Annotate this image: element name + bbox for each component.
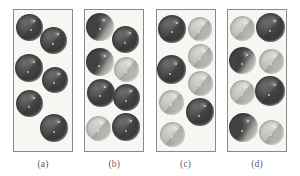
sphere-highlight <box>199 58 201 60</box>
sphere-highlight <box>176 22 178 24</box>
sphere-highlight <box>103 19 105 21</box>
sphere-highlight <box>268 94 270 96</box>
sphere-highlight <box>58 73 60 75</box>
sphere <box>158 15 186 43</box>
sphere-highlight <box>270 134 272 136</box>
sphere-highlight <box>125 130 127 132</box>
sphere <box>230 80 255 105</box>
panel-group: (a) (b) (c) (d) <box>0 9 300 176</box>
sphere-facet <box>86 13 114 41</box>
sphere-highlight <box>175 128 177 130</box>
panel-a <box>13 9 73 152</box>
sphere <box>188 71 213 96</box>
sphere-highlight <box>33 61 35 63</box>
sphere <box>255 76 285 106</box>
sphere-highlight <box>198 31 200 33</box>
panel-d <box>227 9 287 152</box>
panel-label-d: (d) <box>251 160 263 170</box>
sphere <box>188 17 212 41</box>
sphere-highlight <box>33 20 35 22</box>
sphere-highlight <box>57 33 59 35</box>
sphere <box>159 90 184 115</box>
sphere-highlight <box>99 28 101 30</box>
sphere-facet <box>15 54 43 82</box>
sphere-highlight <box>274 84 276 86</box>
sphere-facet <box>188 44 213 69</box>
panel-label-c: (c) <box>180 160 191 170</box>
sphere-highlight <box>246 54 248 56</box>
sphere-highlight <box>241 63 243 65</box>
sphere-highlight <box>274 126 276 128</box>
panel-label-b: (b) <box>108 160 120 170</box>
sphere <box>256 13 285 42</box>
sphere-highlight <box>104 55 106 57</box>
sphere <box>40 114 68 142</box>
sphere-highlight <box>28 106 30 108</box>
sphere-facet <box>86 116 111 141</box>
sphere-facet <box>256 13 285 42</box>
panel-c <box>156 9 216 152</box>
sphere-facet <box>259 49 284 74</box>
sphere-highlight <box>269 30 271 32</box>
sphere-highlight <box>124 42 126 44</box>
sphere-highlight <box>169 73 171 75</box>
sphere <box>86 116 111 141</box>
sphere-facet <box>259 120 284 145</box>
sphere-highlight <box>53 82 55 84</box>
sphere-facet <box>157 55 186 84</box>
sphere-facet <box>87 79 115 107</box>
sphere <box>188 44 213 69</box>
sphere-highlight <box>58 121 60 123</box>
panel-b <box>84 9 144 152</box>
sphere-highlight <box>129 63 131 65</box>
sphere-highlight <box>199 85 201 87</box>
sphere-facet <box>86 48 114 76</box>
sphere-facet <box>160 122 185 147</box>
sphere-highlight <box>170 104 172 106</box>
sphere-facet <box>40 27 67 54</box>
sphere-highlight <box>171 31 173 33</box>
sphere-highlight <box>175 63 177 65</box>
sphere <box>87 79 115 107</box>
sphere-facet <box>159 90 184 115</box>
sphere-highlight <box>241 130 243 132</box>
sphere-facet <box>16 90 43 117</box>
sphere <box>186 98 214 126</box>
sphere-facet <box>114 57 139 82</box>
sphere-highlight <box>245 86 247 88</box>
sphere-highlight <box>245 22 247 24</box>
sphere-highlight <box>129 32 131 34</box>
sphere-highlight <box>204 105 206 107</box>
sphere <box>16 14 43 41</box>
sphere <box>114 57 139 82</box>
sphere-highlight <box>98 65 100 67</box>
sphere-highlight <box>125 71 127 73</box>
sphere-highlight <box>125 100 127 102</box>
sphere-highlight <box>97 130 99 132</box>
sphere-facet <box>229 113 258 142</box>
sphere-highlight <box>202 23 204 25</box>
sphere-facet <box>230 80 255 105</box>
sphere-facet <box>112 26 139 53</box>
sphere-highlight <box>104 86 106 88</box>
sphere-facet <box>158 15 186 43</box>
panel-cell-d: (d) <box>226 9 288 176</box>
panel-cell-c: (c) <box>155 9 217 176</box>
sphere-highlight <box>270 63 272 65</box>
sphere-highlight <box>101 122 103 124</box>
sphere-facet <box>40 114 68 142</box>
sphere <box>113 84 140 111</box>
sphere-facet <box>188 71 213 96</box>
sphere-highlight <box>171 136 173 138</box>
sphere-facet <box>42 67 68 93</box>
sphere-highlight <box>30 29 32 31</box>
panel-cell-b: (b) <box>83 9 145 176</box>
sphere-highlight <box>130 120 132 122</box>
sphere-highlight <box>241 94 243 96</box>
sphere <box>259 49 284 74</box>
sphere-highlight <box>99 95 101 97</box>
sphere-highlight <box>174 96 176 98</box>
sphere-highlight <box>241 30 243 32</box>
sphere <box>16 90 43 117</box>
sphere <box>86 13 114 41</box>
